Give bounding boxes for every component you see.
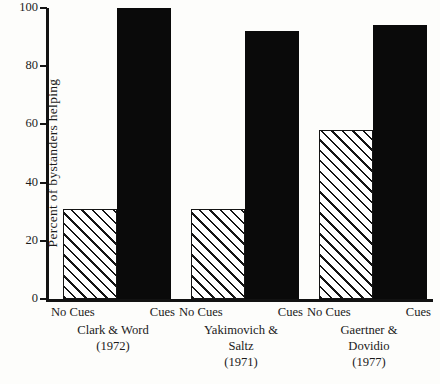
x-axis-group-labels: No CuesCuesClark & Word(1972)No CuesCues…	[49, 305, 433, 383]
group-condition-labels: No CuesCues	[177, 305, 305, 321]
study-label: Clark & Word	[49, 322, 177, 338]
bar-cues	[245, 31, 299, 299]
y-axis-tick-label: 80	[0, 59, 38, 72]
condition-label: No Cues	[307, 305, 351, 321]
study-year: (1971)	[177, 354, 305, 370]
study-year: (1972)	[49, 338, 177, 354]
x-axis-group: No CuesCuesGaertner & Dovidio(1977)	[305, 305, 433, 371]
bar-chart: Percent of bystanders helping 0204060801…	[0, 0, 440, 384]
study-label: Gaertner & Dovidio	[305, 322, 433, 355]
x-axis-line	[46, 299, 433, 302]
y-axis-tick-label: 0	[0, 292, 38, 305]
y-axis-tick-label: 100	[0, 1, 38, 14]
y-axis-tick-label: 60	[0, 117, 38, 130]
y-axis-tick-label: 20	[0, 234, 38, 247]
condition-label: Cues	[150, 305, 175, 321]
group-condition-labels: No CuesCues	[49, 305, 177, 321]
condition-label: Cues	[278, 305, 303, 321]
study-year: (1977)	[305, 354, 433, 370]
study-label: Yakimovich & Saltz	[177, 322, 305, 355]
bar-no-cues	[319, 130, 373, 299]
bar-no-cues	[63, 209, 117, 299]
bar-cues	[373, 25, 427, 299]
group-condition-labels: No CuesCues	[305, 305, 433, 321]
bar-no-cues	[191, 209, 245, 299]
plot-area	[49, 8, 433, 299]
condition-label: Cues	[406, 305, 431, 321]
x-axis-group: No CuesCuesClark & Word(1972)	[49, 305, 177, 354]
condition-label: No Cues	[179, 305, 223, 321]
condition-label: No Cues	[51, 305, 95, 321]
bar-cues	[117, 8, 171, 299]
x-axis-group: No CuesCuesYakimovich & Saltz(1971)	[177, 305, 305, 371]
y-axis-tick-label: 40	[0, 176, 38, 189]
